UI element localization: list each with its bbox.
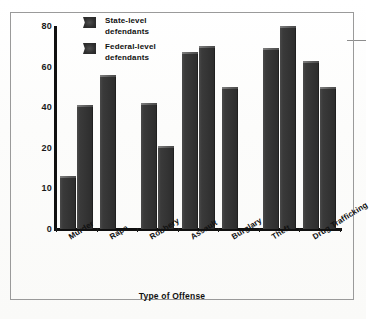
bar <box>199 46 215 229</box>
x-axis-tick-mark <box>218 228 219 232</box>
bar <box>303 61 319 229</box>
bar <box>320 87 336 229</box>
state-level-swatch-icon <box>83 17 96 28</box>
y-axis-tick-label: 40 <box>42 102 52 112</box>
legend-label-line2: defendants <box>105 53 149 62</box>
y-axis-tick-label: 80 <box>42 21 52 31</box>
x-axis-tick-mark <box>178 228 179 232</box>
y-axis-tick-label: 0 <box>47 224 52 234</box>
x-axis-tick-mark <box>299 228 300 232</box>
y-axis-tick-label: 10 <box>42 183 52 193</box>
legend-label-line2: defendants <box>105 27 149 36</box>
bar <box>222 87 238 229</box>
bar <box>141 103 157 229</box>
bar <box>263 48 279 229</box>
legend-item-label: Federal-level defendants <box>105 42 156 63</box>
bar <box>77 105 93 229</box>
y-axis-tick-labels: 80604020100 <box>28 26 52 231</box>
x-axis-tick-mark <box>97 228 98 232</box>
bar <box>60 176 76 229</box>
y-axis-tick-label: 60 <box>42 62 52 72</box>
x-axis-tick-mark <box>137 228 138 232</box>
legend-label-line1: Federal-level <box>105 42 156 51</box>
x-axis-tick-mark <box>56 228 57 232</box>
legend-item-label: State-level defendants <box>105 16 149 37</box>
x-axis-tick-mark <box>340 228 341 232</box>
legend-item: Federal-level defendants <box>83 42 156 63</box>
bar <box>100 75 116 229</box>
x-axis-tick-mark <box>259 228 260 232</box>
bar <box>182 52 198 229</box>
bar <box>280 26 296 229</box>
legend: State-level defendants Federal-level def… <box>83 16 156 68</box>
federal-level-swatch-icon <box>83 43 96 54</box>
legend-label-line1: State-level <box>105 16 147 25</box>
bar <box>158 146 174 229</box>
x-axis-title: Type of Offense <box>0 291 344 301</box>
y-axis-tick-label: 20 <box>42 143 52 153</box>
legend-item: State-level defendants <box>83 16 156 37</box>
